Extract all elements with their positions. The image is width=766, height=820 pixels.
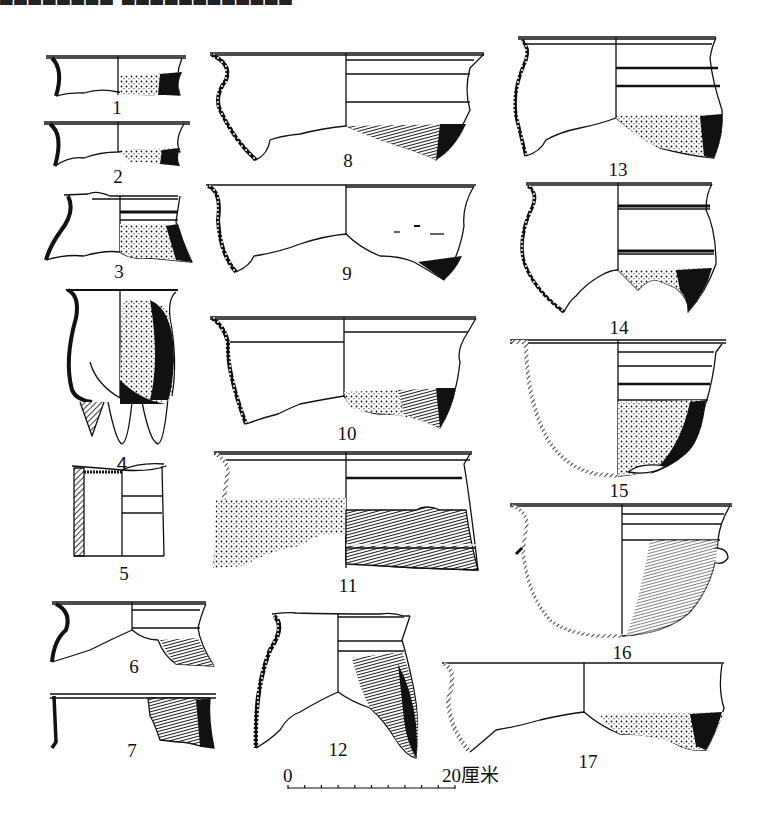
vessel-4 bbox=[66, 290, 178, 444]
vessel-12 bbox=[256, 613, 418, 758]
vessel-9 bbox=[206, 185, 476, 280]
vessel-16 bbox=[510, 504, 732, 636]
scale-bar-start-label: 0 bbox=[283, 766, 293, 785]
vessel-label-8: 8 bbox=[343, 151, 353, 170]
vessel-label-7: 7 bbox=[127, 741, 137, 760]
vessel-label-13: 13 bbox=[609, 160, 628, 179]
vessel-label-12: 12 bbox=[329, 740, 348, 759]
vessel-label-5: 5 bbox=[119, 564, 129, 583]
vessel-label-1: 1 bbox=[112, 98, 122, 117]
vessel-label-9: 9 bbox=[342, 264, 352, 283]
vessel-11 bbox=[214, 452, 478, 570]
vessel-2 bbox=[44, 122, 190, 166]
vessel-3 bbox=[46, 192, 192, 262]
vessel-label-11: 11 bbox=[339, 576, 357, 595]
vessel-label-15: 15 bbox=[610, 481, 629, 500]
vessel-label-4: 4 bbox=[117, 454, 128, 473]
vessel-label-10: 10 bbox=[338, 424, 357, 443]
vessel-13 bbox=[515, 37, 722, 158]
vessel-10 bbox=[210, 317, 476, 428]
pottery-plate bbox=[0, 0, 766, 820]
scale-bar-end-label: 20厘米 bbox=[442, 766, 499, 785]
vessel-1 bbox=[46, 56, 186, 96]
vessel-17 bbox=[442, 663, 724, 752]
vessel-15 bbox=[510, 340, 726, 476]
vessel-8 bbox=[210, 53, 484, 160]
scale-bar bbox=[288, 785, 455, 789]
vessel-label-17: 17 bbox=[579, 752, 598, 771]
vessel-label-16: 16 bbox=[613, 643, 632, 662]
vessel-label-2: 2 bbox=[113, 167, 123, 186]
vessel-label-14: 14 bbox=[610, 318, 629, 337]
vessel-14 bbox=[522, 183, 716, 312]
vessel-label-6: 6 bbox=[129, 657, 139, 676]
vessel-label-3: 3 bbox=[114, 262, 124, 281]
vessel-5 bbox=[72, 464, 166, 556]
